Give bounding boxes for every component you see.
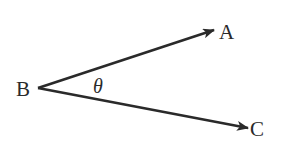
ray-bc: [38, 88, 248, 128]
diagram-svg: B A C θ: [0, 0, 289, 143]
label-a: A: [219, 20, 235, 44]
angle-theta-label: θ: [93, 75, 103, 97]
ray-ba: [38, 30, 214, 88]
angle-diagram: B A C θ: [0, 0, 289, 143]
label-b: B: [16, 77, 30, 101]
label-c: C: [250, 117, 264, 141]
